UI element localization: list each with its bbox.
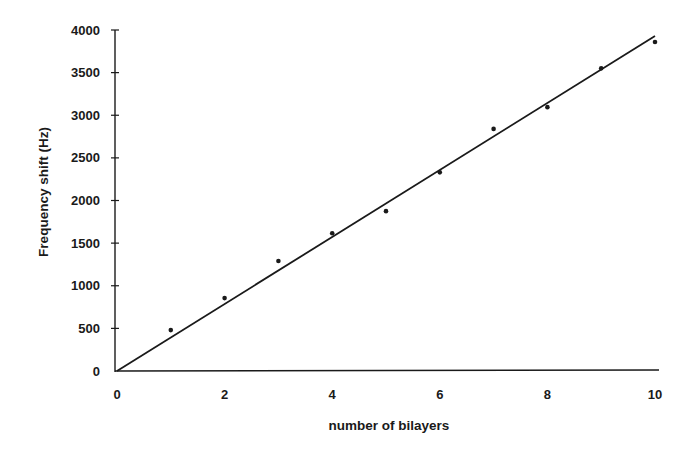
fit-line bbox=[117, 36, 655, 371]
y-axis: 05001000150020002500300035004000 bbox=[71, 23, 119, 379]
y-tick-label: 0 bbox=[93, 364, 100, 379]
y-tick-label: 2000 bbox=[71, 193, 100, 208]
data-point bbox=[222, 296, 227, 301]
x-axis: 0246810 bbox=[113, 370, 662, 402]
x-tick-label: 0 bbox=[113, 387, 120, 402]
data-point bbox=[438, 170, 443, 175]
x-tick-label: 8 bbox=[544, 387, 551, 402]
x-tick-label: 2 bbox=[221, 387, 228, 402]
x-tick-label: 4 bbox=[329, 387, 337, 402]
y-tick-label: 1000 bbox=[71, 278, 100, 293]
data-point bbox=[545, 105, 550, 110]
x-tick-label: 10 bbox=[648, 387, 662, 402]
data-point bbox=[384, 209, 389, 214]
chart: 05001000150020002500300035004000 0246810… bbox=[0, 0, 696, 453]
data-point bbox=[276, 259, 281, 264]
y-tick-label: 3000 bbox=[71, 108, 100, 123]
y-tick-label: 3500 bbox=[71, 65, 100, 80]
data-point bbox=[330, 231, 335, 236]
data-point bbox=[599, 66, 604, 71]
x-tick-label: 6 bbox=[436, 387, 443, 402]
y-tick-label: 500 bbox=[78, 321, 100, 336]
data-point bbox=[169, 328, 174, 333]
y-tick-label: 1500 bbox=[71, 236, 100, 251]
x-axis-title: number of bilayers bbox=[329, 418, 450, 433]
data-point bbox=[491, 127, 496, 132]
y-tick-label: 4000 bbox=[71, 23, 100, 38]
data-point bbox=[653, 40, 658, 45]
y-axis-title: Frequency shift (Hz) bbox=[36, 127, 51, 257]
y-tick-label: 2500 bbox=[71, 150, 100, 165]
